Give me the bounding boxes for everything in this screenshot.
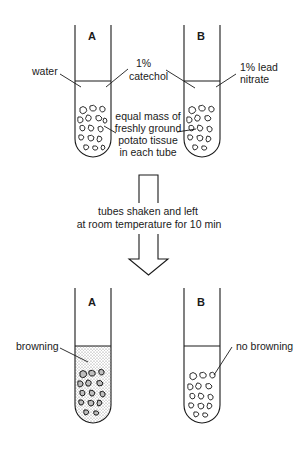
label-tissue-line4: in each tube	[119, 146, 176, 158]
label-tissue-line1: equal mass of	[115, 110, 180, 122]
pointer-catechol	[106, 69, 128, 87]
label-water: water	[31, 65, 58, 77]
label-tissue-line2: freshly ground	[115, 122, 182, 134]
label-catechol-line1: 1%	[136, 57, 151, 69]
diagram-stage: A B	[0, 0, 300, 449]
pointer-catechol-b	[166, 70, 195, 88]
after-tube-b: B	[184, 288, 220, 423]
label-tissue-line3: potato tissue	[118, 134, 178, 146]
arrow-shaft-top	[139, 175, 158, 203]
process-text-line2: at room temperature for 10 min	[77, 218, 222, 230]
tube-letter-b: B	[197, 30, 205, 42]
label-lead-nitrate-line1: 1% lead	[240, 61, 278, 73]
potato-tissue-pieces	[187, 105, 215, 150]
label-lead-nitrate-line2: nitrate	[240, 73, 269, 85]
tube-letter-a: A	[88, 296, 96, 308]
arrow-head	[129, 234, 168, 275]
tube-letter-a: A	[88, 30, 96, 42]
unbrowned-potato-tissue	[188, 372, 216, 417]
experiment-diagram: A B	[0, 0, 300, 449]
after-tube-a: A	[75, 288, 111, 426]
process-text-line1: tubes shaken and left	[98, 205, 198, 217]
before-tube-a: A	[75, 25, 111, 157]
label-catechol-line2: catechol	[129, 70, 168, 82]
pointer-no-browning	[214, 347, 232, 375]
label-no-browning: no browning	[236, 340, 293, 352]
before-tube-b: B	[184, 25, 220, 157]
tube-letter-b: B	[197, 296, 205, 308]
potato-tissue-pieces	[78, 105, 107, 150]
label-browning: browning	[16, 340, 59, 352]
